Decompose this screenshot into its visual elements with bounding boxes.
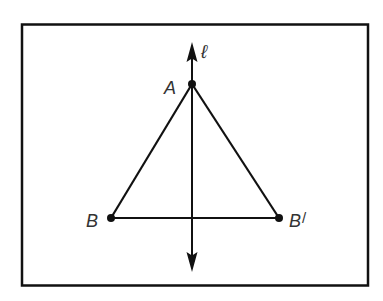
label-bprime-letter: B	[289, 211, 301, 231]
reflection-diagram: ℓ A B B/	[0, 0, 383, 301]
point-a	[188, 80, 196, 88]
segment-a-b	[111, 84, 192, 218]
label-b: B	[86, 211, 98, 231]
label-l: ℓ	[200, 41, 208, 62]
point-bprime	[275, 214, 283, 222]
label-a: A	[163, 78, 176, 98]
label-bprime: B/	[289, 209, 307, 231]
point-b	[107, 214, 115, 222]
segment-a-bprime	[192, 84, 279, 218]
label-bprime-prime: /	[302, 209, 307, 226]
diagram-frame	[22, 25, 368, 286]
